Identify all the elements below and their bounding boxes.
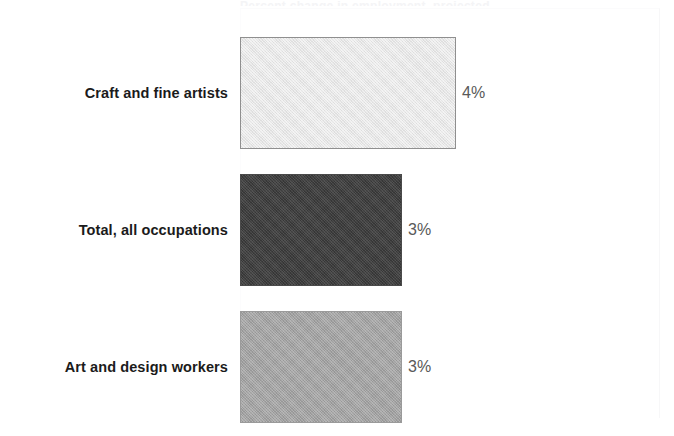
bar-row: Art and design workers 3% [0, 311, 674, 423]
bar-craft-and-fine-artists [240, 37, 456, 149]
value-label-craft-and-fine-artists: 4% [462, 37, 486, 149]
bar-art-and-design-workers [240, 311, 402, 423]
chart-figure: Percent change in employment, projected … [0, 0, 674, 436]
category-label-art-and-design-workers: Art and design workers [0, 311, 230, 423]
bar-row: Total, all occupations 3% [0, 174, 674, 286]
value-label-total-all-occupations: 3% [408, 174, 432, 286]
category-label-craft-and-fine-artists: Craft and fine artists [0, 37, 230, 149]
bar-total-all-occupations [240, 174, 402, 286]
bar-row: Craft and fine artists 4% [0, 37, 674, 149]
value-label-art-and-design-workers: 3% [408, 311, 432, 423]
plot-area: Craft and fine artists 4% Total, all occ… [0, 0, 674, 436]
category-label-total-all-occupations: Total, all occupations [0, 174, 230, 286]
